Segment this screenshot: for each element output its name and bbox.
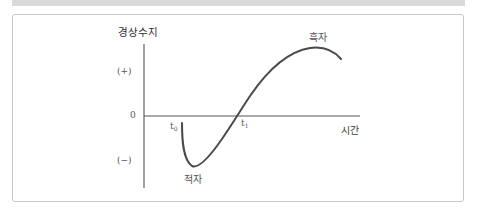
- deficit-label: 적자: [184, 175, 202, 185]
- t0-label: t0: [170, 122, 177, 132]
- j-curve: [182, 48, 341, 167]
- j-curve-diagram: [0, 0, 479, 213]
- t0-sub: 0: [174, 125, 178, 132]
- y-tick-negative: (−): [117, 156, 132, 165]
- x-axis-label: 시간: [341, 126, 359, 136]
- t1-sub: 1: [245, 122, 249, 129]
- y-axis-label: 경상수지: [118, 27, 158, 38]
- surplus-label: 흑자: [309, 33, 327, 43]
- y-tick-zero: 0: [130, 111, 136, 120]
- t1-label: t1: [241, 119, 248, 129]
- y-tick-positive: (+): [117, 67, 132, 76]
